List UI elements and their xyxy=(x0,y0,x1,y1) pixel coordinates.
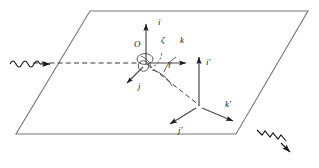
i-prime-mark: ′ xyxy=(209,57,211,67)
k-axis-label: k xyxy=(180,36,184,45)
j-prime-axis-label: j′ xyxy=(178,126,182,135)
j-axis-label: j xyxy=(138,82,141,91)
dashed-ray xyxy=(33,63,199,105)
k-prime-axis-label: k′ xyxy=(225,100,231,109)
incoming-wave-arrow xyxy=(10,61,50,67)
scattering-geometry-figure: O ζ γ i j k i′ j′ k′ xyxy=(0,0,319,168)
zeta-angle-label: ζ xyxy=(161,36,165,45)
i-prime-axis-label: i′ xyxy=(206,58,210,67)
k-prime-axis-down-right xyxy=(202,108,233,121)
origin-label: O xyxy=(134,40,141,49)
primed-frame xyxy=(170,57,233,124)
origin-angle-markers xyxy=(137,52,172,86)
i-axis-label: i xyxy=(158,18,161,27)
k-prime-mark: ′ xyxy=(229,99,231,109)
j-prime-mark: ′ xyxy=(181,125,183,135)
unprimed-frame xyxy=(127,24,186,83)
j-prime-axis-down-left xyxy=(170,108,196,124)
reference-plane xyxy=(16,11,308,134)
outgoing-wave-arrow xyxy=(257,130,290,152)
gamma-angle-label: γ xyxy=(168,60,171,68)
